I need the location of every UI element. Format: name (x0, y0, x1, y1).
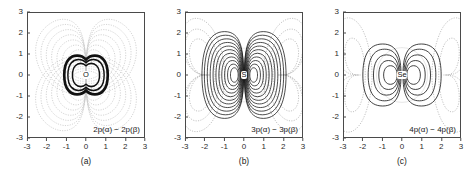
y-tick-b-m1: -1 (174, 92, 185, 100)
x-tick-a-2: 2 (123, 138, 127, 151)
y-tick-c-1: 1 (335, 50, 343, 58)
x-tick-c-1: 1 (419, 138, 423, 151)
x-tick-a-0: 0 (84, 138, 88, 151)
x-tick-b-0: 0 (242, 138, 246, 151)
y-tick-c-3: 3 (335, 8, 343, 16)
plot-area-c: Se 4p(α) − 4p(β) 3 2 1 0 -1 -2 -3 -3 -2 … (343, 12, 461, 138)
plot-area-a: O 2p(α) − 2p(β) 3 2 1 0 -1 -2 -3 -3 -2 -… (27, 12, 145, 138)
atom-symbol-b: S (241, 71, 247, 79)
plot-frame-b: S 3p(α) − 3p(β) (185, 12, 303, 138)
equation-label-c: 4p(α) − 4p(β) (409, 125, 456, 134)
positive-contours-c-left (363, 44, 401, 106)
x-tick-c-m3: -3 (339, 138, 346, 151)
x-tick-b-3: 3 (301, 138, 305, 151)
equation-label-a: 2p(α) − 2p(β) (93, 125, 140, 134)
x-tick-a-m2: -2 (43, 138, 50, 151)
x-tick-a-3: 3 (143, 138, 147, 151)
y-tick-a-2: 2 (19, 29, 27, 37)
y-tick-c-2: 2 (335, 29, 343, 37)
x-tick-c-2: 2 (439, 138, 443, 151)
y-tick-a-m2: -2 (16, 113, 27, 121)
panel-caption-c: (c) (343, 156, 461, 166)
plot-area-b: S 3p(α) − 3p(β) 3 2 1 0 -1 -2 -3 -3 -2 -… (185, 12, 303, 138)
x-tick-b-m3: -3 (181, 138, 188, 151)
x-tick-b-2: 2 (281, 138, 285, 151)
spin-density-contour-figure: O 2p(α) − 2p(β) 3 2 1 0 -1 -2 -3 -3 -2 -… (0, 0, 475, 177)
y-tick-a-1: 1 (19, 50, 27, 58)
positive-contours-c-right (403, 44, 441, 106)
x-tick-c-0: 0 (400, 138, 404, 151)
equation-label-b: 3p(α) − 3p(β) (251, 125, 298, 134)
panel-a: O 2p(α) − 2p(β) 3 2 1 0 -1 -2 -3 -3 -2 -… (0, 0, 158, 177)
y-tick-b-1: 1 (177, 50, 185, 58)
x-tick-b-1: 1 (261, 138, 265, 151)
y-tick-a-3: 3 (19, 8, 27, 16)
y-tick-c-0: 0 (335, 71, 343, 79)
panel-c: Se 4p(α) − 4p(β) 3 2 1 0 -1 -2 -3 -3 -2 … (316, 0, 474, 177)
x-tick-c-3: 3 (459, 138, 463, 151)
atom-symbol-a: O (83, 71, 90, 79)
y-tick-b-3: 3 (177, 8, 185, 16)
x-tick-a-m1: -1 (63, 138, 70, 151)
y-tick-a-0: 0 (19, 71, 27, 79)
x-tick-a-m3: -3 (23, 138, 30, 151)
plot-frame-c: Se 4p(α) − 4p(β) (343, 12, 461, 138)
y-tick-b-m2: -2 (174, 113, 185, 121)
x-tick-b-m1: -1 (221, 138, 228, 151)
x-tick-c-m2: -2 (359, 138, 366, 151)
x-tick-c-m1: -1 (379, 138, 386, 151)
y-tick-b-0: 0 (177, 71, 185, 79)
plot-frame-a: O 2p(α) − 2p(β) (27, 12, 145, 138)
y-tick-c-m2: -2 (332, 113, 343, 121)
panel-caption-a: (a) (27, 156, 145, 166)
y-tick-b-2: 2 (177, 29, 185, 37)
x-tick-a-1: 1 (103, 138, 107, 151)
x-tick-b-m2: -2 (201, 138, 208, 151)
y-tick-a-m1: -1 (16, 92, 27, 100)
y-tick-c-m1: -1 (332, 92, 343, 100)
panel-b: S 3p(α) − 3p(β) 3 2 1 0 -1 -2 -3 -3 -2 -… (158, 0, 316, 177)
atom-symbol-c: Se (397, 71, 407, 79)
panel-caption-b: (b) (185, 156, 303, 166)
